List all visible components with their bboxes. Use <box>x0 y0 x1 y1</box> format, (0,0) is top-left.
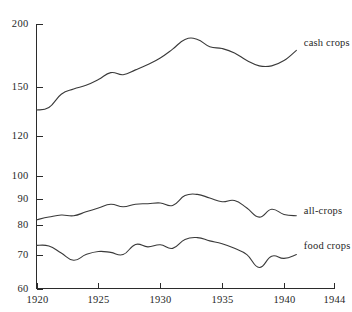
x-tick-label-1930: 1930 <box>141 294 181 305</box>
y-tick-label-80: 80 <box>3 219 29 230</box>
y-tick-label-60: 60 <box>3 283 29 294</box>
y-tick-label-70: 70 <box>3 249 29 260</box>
y-tick-label-120: 120 <box>3 130 29 141</box>
series-label-food-crops: food crops <box>304 240 351 251</box>
series-line-cash-crops <box>37 38 297 110</box>
x-tick-label-1940: 1940 <box>265 294 305 305</box>
y-tick-label-90: 90 <box>3 193 29 204</box>
series-label-all-crops: all-crops <box>304 205 343 216</box>
chart-figure: 60708090100120150200 1920192519301935194… <box>0 0 352 312</box>
y-tick-label-200: 200 <box>3 18 29 29</box>
series-line-all-crops <box>37 194 297 220</box>
chart-axes <box>37 24 334 289</box>
chart-tick-marks <box>37 25 335 290</box>
series-line-food-crops <box>37 237 297 267</box>
series-label-cash-crops: cash crops <box>304 37 350 48</box>
x-tick-label-1920: 1920 <box>18 294 58 305</box>
y-tick-label-100: 100 <box>3 170 29 181</box>
chart-series-lines <box>37 38 297 267</box>
x-tick-label-1944: 1944 <box>315 294 352 305</box>
chart-plot-area <box>0 0 352 312</box>
x-tick-label-1935: 1935 <box>203 294 243 305</box>
y-tick-label-150: 150 <box>3 81 29 92</box>
x-tick-label-1925: 1925 <box>79 294 119 305</box>
